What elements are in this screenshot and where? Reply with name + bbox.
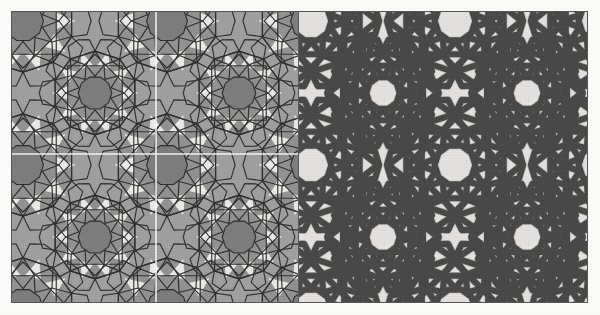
construction-panel	[12, 12, 298, 302]
plate-frame	[11, 11, 588, 303]
figure-plate	[0, 0, 600, 315]
strapwork-pattern-svg	[299, 12, 587, 302]
strapwork-panel	[298, 12, 587, 302]
construction-pattern-svg	[12, 12, 298, 302]
